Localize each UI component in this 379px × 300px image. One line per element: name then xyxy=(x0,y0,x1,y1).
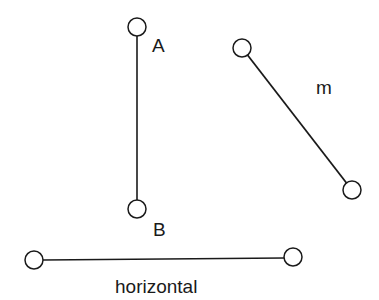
label-a: A xyxy=(152,35,165,56)
endpoint-a-handle[interactable] xyxy=(128,18,146,36)
diagram-canvas: A B m horizontal xyxy=(0,0,379,300)
segment-line xyxy=(248,55,347,183)
segment-m xyxy=(233,39,361,199)
endpoint-b-handle[interactable] xyxy=(128,200,146,218)
vertical-segment-AB xyxy=(128,18,146,218)
label-b: B xyxy=(153,219,166,240)
horizontal-segment xyxy=(25,248,302,269)
label-m: m xyxy=(316,77,332,98)
segment-line xyxy=(43,258,284,260)
endpoint-m-top-handle[interactable] xyxy=(233,39,251,57)
label-horizontal: horizontal xyxy=(115,276,197,297)
endpoint-left-handle[interactable] xyxy=(25,251,43,269)
endpoint-m-bottom-handle[interactable] xyxy=(343,181,361,199)
endpoint-right-handle[interactable] xyxy=(284,248,302,266)
